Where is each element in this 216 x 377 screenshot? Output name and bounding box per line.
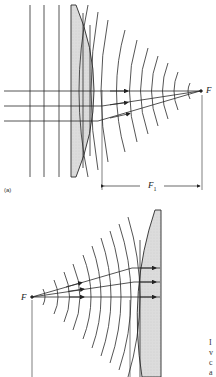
side-text-line: I (209, 338, 213, 348)
focal-point-label-b: F (21, 293, 27, 302)
side-text-line: a (209, 368, 213, 377)
focal-length-subscript: 1 (154, 186, 157, 192)
side-text-cut: I v c a (209, 338, 213, 377)
side-text-line: v (209, 348, 213, 358)
focal-point-label-a: F (206, 86, 212, 95)
figure-b (31, 210, 161, 377)
lens-diagram (0, 0, 216, 377)
focal-length-label: F1 (148, 181, 157, 192)
focal-point-b (31, 296, 34, 299)
side-text-line: c (209, 358, 213, 368)
focal-point-a (200, 90, 203, 93)
panel-label-a: (a) (4, 187, 11, 193)
figure-a (4, 5, 202, 190)
lens-b (137, 210, 161, 377)
